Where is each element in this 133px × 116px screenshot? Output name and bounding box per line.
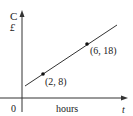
- point-6-18: [85, 42, 89, 46]
- cost-time-graph: C £ 0 hours t (2, 8) (6, 18): [0, 0, 133, 116]
- point-label-6-18: (6, 18): [90, 45, 117, 57]
- y-axis-label: C: [10, 10, 17, 22]
- y-axis-unit: £: [10, 22, 15, 33]
- origin-label: 0: [11, 103, 16, 114]
- x-axis-label: t: [122, 104, 125, 115]
- x-axis-unit: hours: [56, 103, 78, 114]
- point-label-2-8: (2, 8): [45, 76, 67, 88]
- x-axis-arrow-icon: [121, 96, 128, 101]
- y-axis-arrow-icon: [20, 10, 25, 17]
